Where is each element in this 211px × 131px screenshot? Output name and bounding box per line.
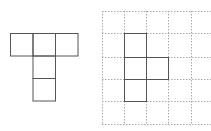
dotted-grid (102, 11, 211, 125)
grid-shape (125, 34, 169, 102)
net-square (33, 34, 56, 57)
shape-square (125, 80, 147, 102)
shape-square (125, 58, 147, 80)
net-square (33, 79, 56, 102)
net-square (33, 56, 56, 79)
shape-square (125, 34, 147, 58)
net-square (56, 34, 79, 57)
net-square (11, 34, 34, 57)
t-shaped-net (11, 34, 79, 102)
diagram-canvas (0, 0, 211, 131)
shape-square (147, 58, 169, 80)
